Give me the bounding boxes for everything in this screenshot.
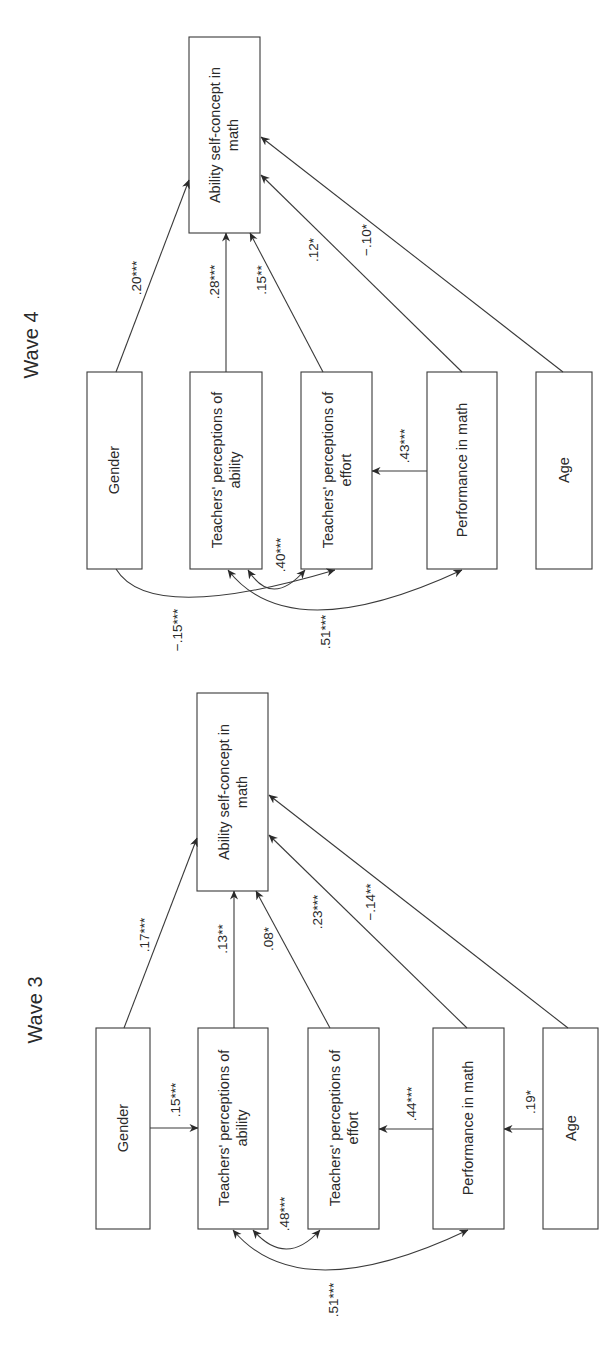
node-teacher-effort: Teachers' perceptions of effort: [301, 372, 372, 569]
coef-gender-asc: .20***: [129, 260, 144, 295]
coef-ability-asc: .13**: [215, 924, 230, 954]
coef-gender-ability: .15***: [168, 1082, 183, 1117]
node-performance-math: Performance in math: [433, 1028, 504, 1229]
corr-ability-perf: [233, 1230, 468, 1270]
coef-ability-effort: .40***: [273, 537, 288, 572]
coef-gender-asc: .17***: [137, 917, 152, 952]
coef-age-asc: −.14**: [363, 883, 378, 921]
coef-ability-effort: .48***: [277, 1196, 292, 1231]
node-label-line2: math: [225, 119, 241, 151]
node-gender: Gender: [87, 372, 142, 569]
path-perf-to-asc: [261, 175, 462, 372]
corr-ability-effort: [253, 1230, 320, 1249]
panel-wave-4: Wave 4 Ability self-concept in math Gend…: [20, 37, 592, 651]
path-gender-to-asc: [124, 838, 197, 1028]
node-label: Gender: [115, 1104, 131, 1153]
node-label: Gender: [106, 446, 122, 495]
coef-ability-perf: .51***: [326, 1282, 341, 1317]
node-label-line1: Teachers' perceptions of: [216, 1049, 232, 1207]
coef-gender-effort: −.15***: [170, 608, 185, 651]
node-label: Age: [563, 1115, 579, 1141]
node-label-line1: Teachers' perceptions of: [320, 391, 336, 549]
coef-ability-perf: .51***: [318, 614, 333, 649]
node-label-line2: effort: [345, 1112, 361, 1145]
node-label-line1: Teachers' perceptions of: [327, 1049, 343, 1207]
coef-perf-asc: .12*: [306, 237, 321, 262]
coef-effort-asc: .08*: [261, 926, 276, 951]
node-ability-self-concept: Ability self-concept in math: [189, 37, 260, 233]
node-label-line2: effort: [338, 454, 354, 487]
corr-ability-perf: [228, 570, 462, 610]
node-label: Age: [556, 457, 572, 483]
node-label-line2: ability: [227, 451, 243, 489]
coef-perf-effort: .43***: [397, 428, 412, 463]
coef-effort-asc: .15**: [254, 265, 269, 295]
node-teacher-ability: Teachers' perceptions of ability: [190, 372, 262, 569]
node-teacher-effort: Teachers' perceptions of effort: [308, 1028, 379, 1229]
node-label-line1: Teachers' perceptions of: [209, 391, 225, 549]
node-label: Performance in math: [460, 1061, 476, 1196]
panel-title: Wave 4: [20, 311, 42, 378]
node-age: Age: [536, 372, 592, 569]
node-performance-math: Performance in math: [427, 372, 497, 569]
coef-ability-asc: .28***: [207, 264, 222, 299]
node-label-line1: Ability self-concept in: [207, 67, 223, 203]
panel-title: Wave 3: [24, 976, 46, 1043]
node-ability-self-concept: Ability self-concept in math: [197, 693, 268, 891]
coef-perf-effort: .44***: [404, 1086, 419, 1121]
coef-age-perf: .19*: [523, 1089, 538, 1114]
node-label-line2: ability: [234, 1109, 250, 1147]
coef-age-asc: −.10*: [359, 223, 374, 256]
path-perf-to-asc: [269, 835, 467, 1028]
node-teacher-ability: Teachers' perceptions of ability: [198, 1028, 268, 1229]
node-gender: Gender: [96, 1028, 150, 1229]
node-label-line1: Ability self-concept in: [216, 724, 232, 860]
node-label: Performance in math: [454, 403, 470, 538]
node-age: Age: [543, 1028, 598, 1229]
panel-wave-3: Wave 3 Ability self-concept in math Gend…: [24, 693, 598, 1317]
coef-perf-asc: .23***: [310, 894, 325, 929]
path-gender-to-asc: [116, 180, 189, 372]
path-diagram: Wave 4 Ability self-concept in math Gend…: [0, 0, 611, 1349]
node-label-line2: math: [234, 776, 250, 808]
